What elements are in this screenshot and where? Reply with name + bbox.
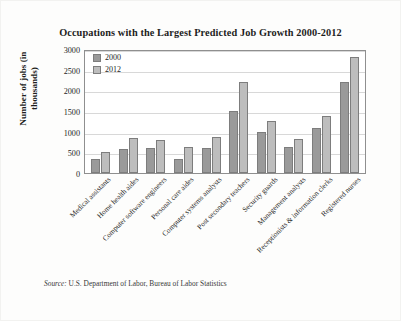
- bar: [322, 116, 331, 173]
- x-axis-labels: Medical assistantsHome health aidesCompu…: [84, 175, 366, 255]
- bar-group: [170, 51, 198, 173]
- bar: [350, 57, 359, 173]
- x-tick-label: Post secondary teachers: [195, 175, 251, 231]
- chart-title: Occupations with the Largest Predicted J…: [0, 27, 401, 38]
- bar-group: [197, 51, 225, 173]
- plot-area: [84, 50, 366, 174]
- chart-page: Occupations with the Largest Predicted J…: [0, 0, 401, 321]
- source-note: Source: U.S. Department of Labor, Bureau…: [44, 279, 227, 288]
- bar: [239, 82, 248, 173]
- legend-swatch: [93, 54, 101, 62]
- y-axis-ticks: 300025002000150010005000: [52, 50, 82, 174]
- x-tick-label: Management analysts: [255, 175, 307, 227]
- bar: [312, 128, 321, 173]
- y-tick-label: 1500: [64, 108, 80, 117]
- y-tick-label: 500: [68, 149, 80, 158]
- bar: [340, 82, 349, 173]
- bar: [184, 147, 193, 173]
- bar: [156, 140, 165, 173]
- y-tick-label: 0: [76, 170, 80, 179]
- y-tick-label: 2500: [64, 66, 80, 75]
- bar: [284, 147, 293, 173]
- bar: [267, 121, 276, 173]
- bar: [212, 137, 221, 173]
- bar: [146, 148, 155, 173]
- bar-group: [142, 51, 170, 173]
- bar-group: [280, 51, 308, 173]
- bar: [174, 159, 183, 173]
- bar: [129, 138, 138, 173]
- bar-group: [225, 51, 253, 173]
- bar-groups: [85, 51, 365, 173]
- bar: [257, 132, 266, 173]
- bar: [202, 148, 211, 173]
- chart-legend: 20002012: [93, 53, 121, 74]
- bar-group: [335, 51, 363, 173]
- bar-group: [253, 51, 281, 173]
- legend-label: 2012: [105, 65, 121, 74]
- bar: [119, 149, 128, 173]
- y-tick-label: 2000: [64, 87, 80, 96]
- y-axis-title: Number of jobs (in thousands): [18, 34, 39, 144]
- legend-swatch: [93, 66, 101, 74]
- legend-item: 2000: [93, 53, 121, 62]
- source-text: U.S. Department of Labor, Bureau of Labo…: [69, 279, 227, 288]
- y-tick-label: 3000: [64, 46, 80, 55]
- bar: [294, 139, 303, 173]
- source-prefix: Source:: [44, 279, 67, 288]
- legend-item: 2012: [93, 65, 121, 74]
- y-tick-label: 1000: [64, 128, 80, 137]
- bar: [229, 111, 238, 173]
- bar-group: [308, 51, 336, 173]
- legend-label: 2000: [105, 53, 121, 62]
- bar: [91, 159, 100, 173]
- bar: [101, 152, 110, 173]
